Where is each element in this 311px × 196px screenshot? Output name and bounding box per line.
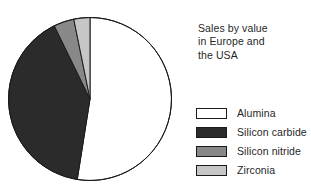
legend-item[interactable]: Alumina — [196, 104, 311, 123]
legend-label: Silicon nitride — [237, 146, 301, 157]
legend-label: Alumina — [237, 108, 276, 119]
legend-label: Zirconia — [237, 165, 275, 176]
legend-item[interactable]: Silicon nitride — [196, 142, 311, 161]
pie-chart-svg — [0, 0, 182, 196]
legend-swatch-zirconia — [196, 165, 227, 176]
legend-item[interactable]: Silicon carbide — [196, 123, 311, 142]
chart-legend: AluminaSilicon carbideSilicon nitrideZir… — [196, 104, 311, 180]
pie-slice-alumina[interactable] — [77, 18, 171, 181]
legend-label: Silicon carbide — [237, 127, 307, 138]
legend-item[interactable]: Zirconia — [196, 161, 311, 180]
pie-chart-figure: Sales by value in Europe and the USA Alu… — [0, 0, 311, 196]
legend-swatch-silicon-nitride — [196, 146, 227, 157]
chart-side-panel: Sales by value in Europe and the USA Alu… — [196, 0, 311, 196]
pie-chart-plot-area — [0, 0, 182, 196]
chart-title: Sales by value in Europe and the USA — [198, 22, 311, 62]
legend-swatch-silicon-carbide — [196, 127, 227, 138]
legend-swatch-alumina — [196, 108, 227, 119]
